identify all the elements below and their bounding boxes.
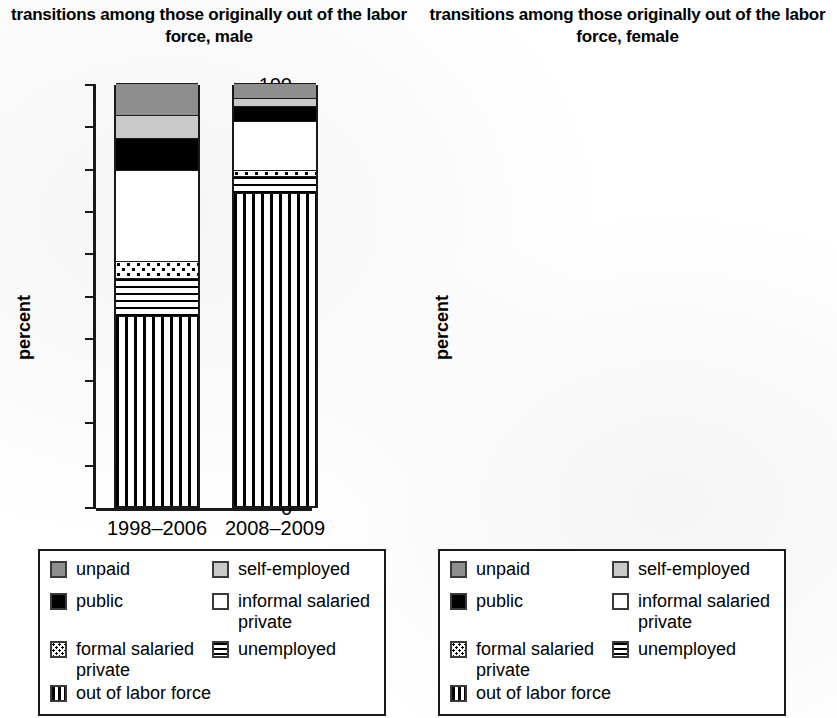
legend-item-unemployed[interactable]: unemployed [612, 639, 736, 660]
y-axis-tick [85, 84, 93, 86]
bar-segment-unpaid[interactable] [234, 83, 316, 98]
chart-title-male: transitions among those originally out o… [8, 4, 410, 48]
y-axis-tick [85, 507, 93, 509]
legend-item-formal-salaried-private[interactable]: formal salaried private [450, 639, 594, 680]
unemployed-swatch [212, 641, 229, 658]
unpaid-swatch [50, 561, 67, 578]
bar-segment-unemployed[interactable] [116, 278, 198, 316]
public-swatch [50, 593, 67, 610]
bar-segment-formal-salaried-private[interactable] [116, 261, 198, 278]
formal-salaried-private-swatch [50, 641, 67, 658]
legend-item-public[interactable]: public [50, 591, 123, 612]
legend-item-unemployed[interactable]: unemployed [212, 639, 336, 660]
legend-label: public [476, 591, 523, 612]
x-axis-tick-label: 2008–2009 [210, 517, 340, 540]
legend-item-formal-salaried-private[interactable]: formal salaried private [50, 639, 194, 680]
legend-item-informal-salaried-private[interactable]: informal salaried private [212, 591, 370, 632]
x-axis-tick-label: 1998–2006 [92, 517, 222, 540]
legend-female: unpaidself-employedpublicinformal salari… [438, 549, 786, 716]
y-axis-tick [85, 126, 93, 128]
bar-male-2008-2009[interactable] [232, 85, 318, 508]
bar-segment-unpaid[interactable] [116, 83, 198, 115]
formal-salaried-private-swatch [450, 641, 467, 658]
y-axis-tick [85, 465, 93, 467]
legend-label: unpaid [476, 559, 530, 580]
legend-label: informal salaried private [238, 591, 370, 632]
y-axis-tick [85, 253, 93, 255]
legend-item-out-of-labor-force[interactable]: out of labor force [50, 683, 211, 704]
informal-salaried-private-swatch [612, 593, 629, 610]
self-employed-swatch [212, 561, 229, 578]
out-of-labor-force-swatch [50, 685, 67, 702]
y-axis-label-female: percent [432, 295, 453, 360]
legend-label: formal salaried private [76, 639, 194, 680]
legend-label: out of labor force [476, 683, 611, 704]
y-axis-tick [85, 422, 93, 424]
bar-segment-informal-salaried-private[interactable] [116, 170, 198, 261]
legend-label: self-employed [638, 559, 750, 580]
out-of-labor-force-swatch [450, 685, 467, 702]
self-employed-swatch [612, 561, 629, 578]
legend-item-unpaid[interactable]: unpaid [450, 559, 530, 580]
bar-segment-formal-salaried-private[interactable] [234, 170, 316, 176]
informal-salaried-private-swatch [212, 593, 229, 610]
legend-label: formal salaried private [476, 639, 594, 680]
y-axis-line-male [93, 84, 96, 509]
legend-label: public [76, 591, 123, 612]
legend-item-unpaid[interactable]: unpaid [50, 559, 130, 580]
legend-item-self-employed[interactable]: self-employed [612, 559, 750, 580]
public-swatch [450, 593, 467, 610]
legend-item-self-employed[interactable]: self-employed [212, 559, 350, 580]
bar-segment-public[interactable] [234, 106, 316, 121]
unpaid-swatch [450, 561, 467, 578]
plot-area-male: 01020304050607080901001998–20062008–2009 [96, 85, 312, 508]
chart-title-female: transitions among those originally out o… [426, 4, 829, 48]
legend-male: unpaidself-employedpublicinformal salari… [38, 549, 386, 716]
legend-item-out-of-labor-force[interactable]: out of labor force [450, 683, 611, 704]
bar-segment-out-of-labor-force[interactable] [234, 193, 316, 506]
bar-segment-public[interactable] [116, 138, 198, 170]
legend-label: out of labor force [76, 683, 211, 704]
legend-item-informal-salaried-private[interactable]: informal salaried private [612, 591, 770, 632]
y-axis-tick [85, 211, 93, 213]
bar-segment-self-employed[interactable] [116, 115, 198, 138]
x-axis-line-male [96, 508, 312, 511]
legend-label: informal salaried private [638, 591, 770, 632]
y-axis-tick [85, 380, 93, 382]
legend-item-public[interactable]: public [450, 591, 523, 612]
legend-label: self-employed [238, 559, 350, 580]
y-axis-tick [85, 169, 93, 171]
legend-label: unpaid [76, 559, 130, 580]
y-axis-tick [85, 296, 93, 298]
unemployed-swatch [612, 641, 629, 658]
bar-segment-out-of-labor-force[interactable] [116, 316, 198, 506]
bar-segment-informal-salaried-private[interactable] [234, 121, 316, 170]
legend-label: unemployed [238, 639, 336, 660]
legend-label: unemployed [638, 639, 736, 660]
y-axis-label-male: percent [14, 295, 35, 360]
bar-segment-unemployed[interactable] [234, 176, 316, 193]
y-axis-tick [85, 338, 93, 340]
bar-male-1998-2006[interactable] [114, 85, 200, 508]
bar-segment-self-employed[interactable] [234, 98, 316, 106]
